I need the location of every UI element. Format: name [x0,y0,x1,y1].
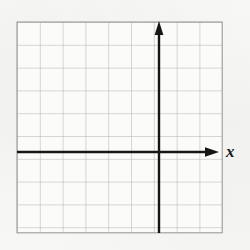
coordinate-grid-figure: x [0,0,250,250]
grid-lines [17,22,222,233]
x-axis-label: x [226,143,235,160]
coordinate-plane-svg [0,0,250,250]
